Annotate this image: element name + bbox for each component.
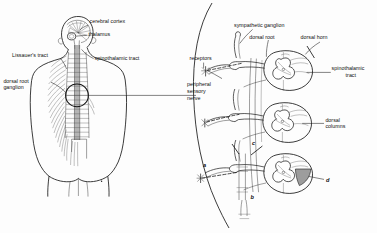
label-lissauers-tract: Lissauer's tract xyxy=(12,52,48,58)
label-peripheral-nerve-line2: sensory xyxy=(187,88,206,94)
label-thalamus: thalamus xyxy=(88,31,110,37)
thalamus-shape xyxy=(68,33,76,40)
spinal-segment-top xyxy=(208,32,313,91)
longitudinal-nerve-trunks xyxy=(249,58,262,192)
left-panel-body-overview: cerebral cortex thalamus spinothalamic t… xyxy=(3,16,196,196)
figure-canvas: cerebral cortex thalamus spinothalamic t… xyxy=(0,0,377,233)
root-tick-marks xyxy=(232,46,314,154)
label-dorsal-root-ganglion-line1: dorsal root xyxy=(3,78,29,84)
label-cerebral-cortex: cerebral cortex xyxy=(90,18,126,24)
spinal-cord-band xyxy=(74,45,79,140)
label-sympathetic-ganglion: sympathetic ganglion xyxy=(234,22,284,28)
label-spinothalamic-tract-line1: spinothalamic xyxy=(332,65,365,71)
marker-d-leader xyxy=(309,176,324,179)
label-receptors: receptors xyxy=(189,55,212,61)
anatomical-figure: cerebral cortex thalamus spinothalamic t… xyxy=(0,0,377,233)
marker-a: a xyxy=(203,162,206,168)
label-spinothalamic-tract-left: spinothalamic tract xyxy=(95,55,140,61)
spinal-segment-bottom xyxy=(205,140,313,194)
label-spinothalamic-tract-line2: tract xyxy=(346,72,357,78)
label-peripheral-nerve-line3: nerve xyxy=(187,95,200,101)
marker-d: d xyxy=(326,177,330,183)
magnification-arc xyxy=(193,3,229,228)
marker-c-crossing-fiber xyxy=(251,146,262,155)
label-dorsal-root-ganglion-line2: ganglion xyxy=(3,84,23,90)
label-dorsal-root: dorsal root xyxy=(249,34,275,40)
marker-b: b xyxy=(250,194,254,200)
label-dorsal-columns-line2: columns xyxy=(325,123,345,129)
label-peripheral-nerve-line1: peripheral xyxy=(187,81,211,87)
marker-b-fiber-bundle xyxy=(237,153,251,219)
right-panel-magnified: sympathetic ganglion dorsal root dorsal … xyxy=(187,3,365,228)
spinal-segment-middle xyxy=(207,89,311,143)
label-dorsal-columns-line1: dorsal xyxy=(325,117,340,123)
label-dorsal-horn: dorsal horn xyxy=(301,34,328,40)
